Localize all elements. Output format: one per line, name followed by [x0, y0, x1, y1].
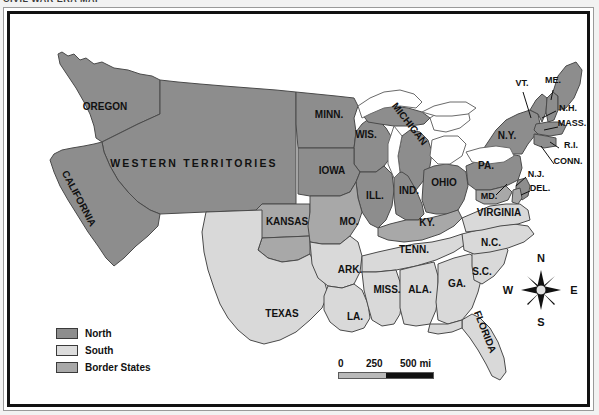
state-label-western-territories: WESTERN TERRITORIES: [110, 157, 278, 169]
legend-label-north: North: [85, 328, 112, 339]
compass-rose: N E S W: [500, 248, 582, 332]
state-label-mass: MASS.: [558, 118, 587, 128]
state-label-pa: PA.: [478, 160, 494, 171]
state-label-n-y: N.Y.: [498, 130, 517, 141]
region-south: [202, 204, 534, 380]
state-label-conn: CONN.: [554, 156, 583, 166]
scale-segment-light: [339, 373, 386, 378]
state-label-ark: ARK.: [338, 264, 363, 275]
map-figure: CIVIL WAR ERA MAP: [0, 0, 599, 415]
state-label-s-c: S.C.: [472, 266, 492, 277]
legend-item-border-states: Border States: [56, 360, 151, 375]
compass-label-west: W: [503, 284, 514, 296]
map-legend: North South Border States: [56, 326, 151, 377]
compass-label-south: S: [537, 316, 544, 328]
state-label-minn: MINN.: [315, 109, 344, 120]
state-label-texas: TEXAS: [265, 308, 299, 319]
compass-label-east: E: [570, 284, 577, 296]
scale-tick-labels: 0 250 500 mi: [338, 358, 443, 372]
state-label-virginia: VIRGINIA: [477, 207, 521, 218]
state-label-md: MD.: [481, 191, 498, 201]
clipped-header-strip: CIVIL WAR ERA MAP: [0, 0, 599, 6]
compass-label-north: N: [537, 252, 545, 264]
state-label-wis: WIS.: [355, 129, 377, 140]
state-label-iowa: IOWA: [319, 165, 346, 176]
scale-tick-500: 500 mi: [400, 358, 431, 369]
legend-item-north: North: [56, 326, 151, 341]
state-label-vt: VT.: [515, 78, 528, 88]
scale-bar-graphic: [338, 372, 434, 379]
legend-label-south: South: [85, 345, 113, 356]
state-label-tenn: TENN.: [399, 244, 429, 255]
state-label-ill: ILL.: [366, 190, 384, 201]
state-label-ohio: OHIO: [431, 177, 457, 188]
state-label-del: DEL.: [530, 183, 551, 193]
map-scale-bar: 0 250 500 mi: [338, 358, 443, 379]
legend-swatch-border-states: [56, 362, 78, 373]
state-label-la: LA.: [347, 311, 363, 322]
state-label-oregon: OREGON: [83, 101, 127, 112]
legend-label-border-states: Border States: [85, 362, 151, 373]
state-label-kansas: KANSAS: [266, 216, 309, 227]
legend-item-south: South: [56, 343, 151, 358]
state-label-ga: GA.: [448, 278, 466, 289]
scale-tick-250: 250: [366, 358, 383, 369]
legend-swatch-south: [56, 345, 78, 356]
compass-rose-icon: N E S W: [500, 248, 582, 332]
state-label-n-c: N.C.: [481, 237, 501, 248]
state-label-r-i: R.I.: [564, 140, 578, 150]
state-label-miss: MISS.: [373, 284, 400, 295]
state-label-n-j: N.J.: [528, 169, 545, 179]
scale-tick-0: 0: [338, 358, 344, 369]
scale-segment-dark: [386, 373, 433, 378]
state-label-ind: IND.: [399, 185, 419, 196]
state-label-mo: MO.: [340, 216, 359, 227]
legend-swatch-north: [56, 328, 78, 339]
state-label-n-h: N.H.: [559, 103, 577, 113]
state-label-me: ME.: [545, 75, 561, 85]
clipped-header-text: CIVIL WAR ERA MAP: [3, 0, 102, 4]
state-label-ala: ALA.: [408, 284, 432, 295]
compass-star: [521, 270, 561, 310]
state-label-ky: KY.: [419, 217, 435, 228]
